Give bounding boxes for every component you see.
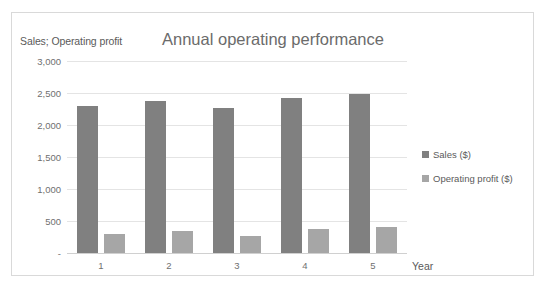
y-axis-tick-label: - <box>58 248 61 259</box>
plot-area: 3,0002,5002,0001,5001,000500- <box>67 61 407 253</box>
x-axis-tick-label: 4 <box>271 253 339 277</box>
x-axis-title: Year <box>412 260 433 272</box>
x-axis-tick-label: 5 <box>339 253 407 277</box>
x-axis-tick-labels: 12345 <box>67 253 407 277</box>
bar[interactable] <box>240 236 261 253</box>
legend-item-label: Operating profit ($) <box>433 173 513 184</box>
chart-title: Annual operating performance <box>162 30 384 49</box>
bar-groups <box>67 61 407 253</box>
bar[interactable] <box>349 94 370 253</box>
y-axis-tick-label: 3,000 <box>37 56 61 67</box>
square-marker-icon <box>422 151 429 158</box>
bar[interactable] <box>308 229 329 253</box>
bar-group <box>271 61 339 253</box>
bar-group <box>203 61 271 253</box>
bar-group <box>339 61 407 253</box>
x-axis-tick-label: 1 <box>67 253 135 277</box>
bar-group <box>67 61 135 253</box>
bar[interactable] <box>376 227 397 253</box>
y-axis-tick-label: 1,000 <box>37 184 61 195</box>
y-axis-title: Sales; Operating profit <box>20 35 122 47</box>
legend-item[interactable]: Sales ($) <box>422 149 540 160</box>
chart-legend: Sales ($)Operating profit ($) <box>422 149 540 197</box>
bar[interactable] <box>281 98 302 253</box>
legend-item-label: Sales ($) <box>433 149 471 160</box>
y-axis-tick-label: 1,500 <box>37 152 61 163</box>
chart-container: Sales; Operating profit Annual operating… <box>11 12 534 276</box>
bar[interactable] <box>77 106 98 253</box>
y-axis-tick-label: 2,500 <box>37 88 61 99</box>
y-axis-tick-label: 2,000 <box>37 120 61 131</box>
bar[interactable] <box>145 101 166 253</box>
y-axis-tick-label: 500 <box>45 216 61 227</box>
square-marker-icon <box>422 175 429 182</box>
bar[interactable] <box>213 108 234 253</box>
x-axis-tick-label: 3 <box>203 253 271 277</box>
x-axis-tick-label: 2 <box>135 253 203 277</box>
bar[interactable] <box>172 231 193 253</box>
bar[interactable] <box>104 234 125 253</box>
legend-item[interactable]: Operating profit ($) <box>422 173 540 184</box>
bar-group <box>135 61 203 253</box>
